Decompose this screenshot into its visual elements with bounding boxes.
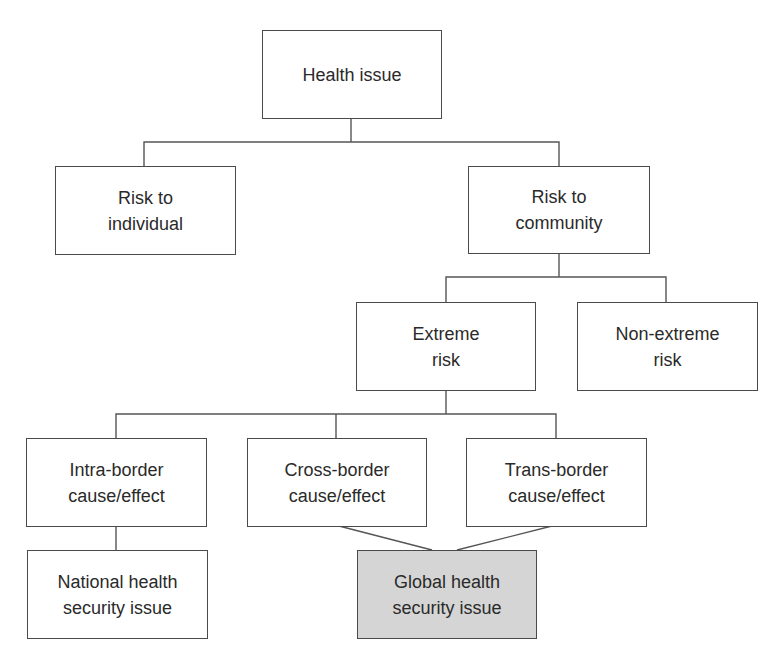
connector-cross-to-global bbox=[339, 526, 432, 550]
node-health-issue: Health issue bbox=[262, 30, 442, 119]
node-non-extreme-risk: Non-extreme risk bbox=[577, 302, 758, 391]
node-risk-to-individual: Risk to individual bbox=[55, 166, 236, 255]
node-national-health-security: National health security issue bbox=[27, 550, 208, 639]
node-trans-border: Trans-border cause/effect bbox=[466, 438, 647, 527]
connector-trans-to-global bbox=[457, 526, 552, 550]
node-extreme-risk: Extreme risk bbox=[356, 302, 536, 391]
node-cross-border: Cross-border cause/effect bbox=[247, 438, 427, 527]
connector-community-bar bbox=[446, 277, 666, 302]
connector-risks-bar bbox=[144, 142, 559, 166]
node-risk-to-community: Risk to community bbox=[468, 166, 650, 254]
node-intra-border: Intra-border cause/effect bbox=[26, 438, 207, 527]
classification-diagram: Health issue Risk to individual Risk to … bbox=[0, 0, 780, 666]
node-global-health-security: Global health security issue bbox=[357, 550, 537, 639]
